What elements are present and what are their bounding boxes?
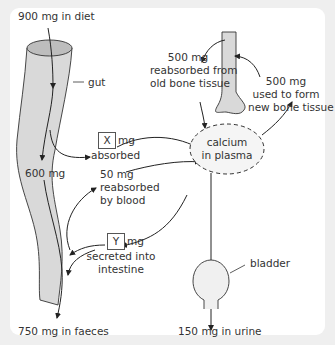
secreted-answer-box: Y [107, 233, 125, 250]
bone-reabsorbed-line3: old bone tissue [150, 77, 226, 90]
plasma-line1: calcium [192, 136, 262, 149]
absorbed-answer-box: X [98, 132, 116, 149]
bladder-label: bladder [250, 257, 290, 270]
reabsorbed-blood-line2: reabsorbed [100, 181, 160, 194]
bone-reabsorbed-line2: reabsorbed from [150, 64, 226, 77]
bone-formed-line3: new bone tissue [248, 101, 324, 114]
bladder-icon [193, 260, 229, 309]
secreted-line1: secreted into [86, 250, 156, 263]
bone-reabsorbed-line1: 500 mg [150, 51, 226, 64]
bladder-pointer [230, 265, 245, 273]
absorbed-label: absorbed [91, 149, 140, 162]
secreted-line2: intestine [86, 263, 156, 276]
secreted-unit: mg [127, 235, 144, 248]
bone-formed-line1: 500 mg [248, 75, 324, 88]
absorbed-unit: mg [118, 134, 135, 147]
bone-formed-line2: used to form [248, 88, 324, 101]
plasma-line2: in plasma [192, 149, 262, 162]
urine-label: 150 mg in urine [178, 325, 262, 338]
gut-label: gut [88, 76, 105, 89]
reabsorbed-blood-line1: 50 mg [100, 168, 134, 181]
reabsorbed-blood-line3: by blood [100, 194, 145, 207]
faeces-label: 750 mg in faeces [18, 325, 109, 338]
diet-label: 900 mg in diet [18, 10, 95, 23]
gut-flow-label: 600 mg [25, 167, 65, 180]
